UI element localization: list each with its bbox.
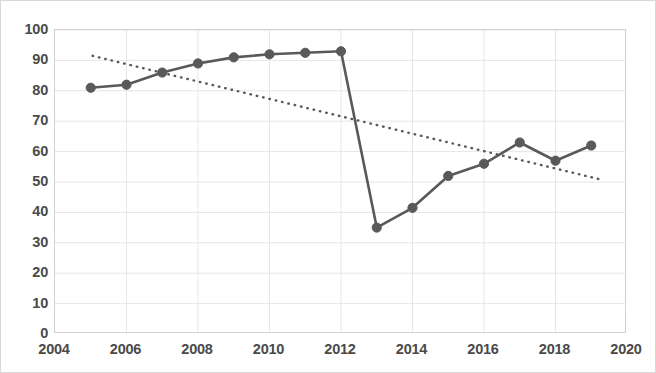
data-point-2005 xyxy=(86,83,95,92)
plot-area xyxy=(54,29,626,333)
x-tick-label-2020: 2020 xyxy=(596,342,656,357)
data-point-2013 xyxy=(372,223,381,232)
x-axis-tick-labels: 200420062008201020122014201620182020 xyxy=(1,342,656,364)
y-tick-label-60: 60 xyxy=(14,144,48,159)
data-point-2010 xyxy=(265,50,274,59)
y-tick-label-20: 20 xyxy=(14,265,48,280)
y-tick-label-100: 100 xyxy=(14,22,48,37)
x-tick-label-2010: 2010 xyxy=(239,342,299,357)
x-tick-label-2006: 2006 xyxy=(96,342,156,357)
y-tick-label-0: 0 xyxy=(14,326,48,341)
data-point-2017 xyxy=(515,138,524,147)
data-point-2009 xyxy=(229,53,238,62)
data-point-2011 xyxy=(301,48,310,57)
chart-figure: 0102030405060708090100 20042006200820102… xyxy=(0,0,656,373)
data-point-2018 xyxy=(551,156,560,165)
data-point-2014 xyxy=(408,203,417,212)
data-point-2015 xyxy=(444,171,453,180)
data-point-2006 xyxy=(122,80,131,89)
data-point-2016 xyxy=(479,159,488,168)
data-point-2007 xyxy=(158,68,167,77)
x-tick-label-2012: 2012 xyxy=(310,342,370,357)
y-axis-tick-labels: 0102030405060708090100 xyxy=(7,1,48,373)
x-tick-label-2004: 2004 xyxy=(24,342,84,357)
x-tick-label-2018: 2018 xyxy=(525,342,585,357)
data-point-2019 xyxy=(587,141,596,150)
y-tick-label-80: 80 xyxy=(14,83,48,98)
y-tick-label-30: 30 xyxy=(14,235,48,250)
plot-svg xyxy=(55,30,627,334)
data-point-2012 xyxy=(336,47,345,56)
y-tick-label-90: 90 xyxy=(14,52,48,67)
x-tick-label-2014: 2014 xyxy=(382,342,442,357)
y-tick-label-50: 50 xyxy=(14,174,48,189)
y-tick-label-70: 70 xyxy=(14,113,48,128)
x-tick-label-2008: 2008 xyxy=(167,342,227,357)
y-tick-label-10: 10 xyxy=(14,296,48,311)
data-point-2008 xyxy=(193,59,202,68)
y-tick-label-40: 40 xyxy=(14,204,48,219)
x-tick-label-2016: 2016 xyxy=(453,342,513,357)
